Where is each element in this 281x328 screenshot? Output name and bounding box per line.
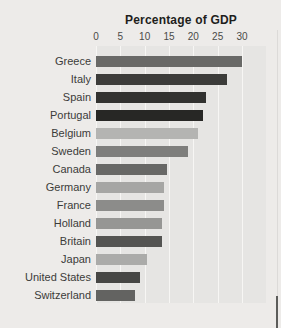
bar: [96, 272, 140, 283]
category-label: Portugal: [0, 107, 91, 124]
page-edge-line-upper: [277, 30, 278, 296]
gridline: [242, 46, 243, 303]
page-edge-line-lower: [276, 296, 278, 328]
bar: [96, 218, 162, 229]
category-label: Holland: [0, 215, 91, 232]
category-label: Germany: [0, 179, 91, 196]
category-label: Sweden: [0, 143, 91, 160]
category-label: Canada: [0, 161, 91, 178]
x-tick-label: 0: [93, 31, 99, 42]
category-label: Switzerland: [0, 287, 91, 304]
category-label: Greece: [0, 53, 91, 70]
x-tick-label: 20: [188, 31, 199, 42]
category-label: France: [0, 197, 91, 214]
x-tick-label: 25: [212, 31, 223, 42]
category-label: United States: [0, 269, 91, 286]
x-tick-label: 30: [236, 31, 247, 42]
category-label: Japan: [0, 251, 91, 268]
category-label: Britain: [0, 233, 91, 250]
bar: [96, 110, 203, 121]
bar: [96, 92, 206, 103]
x-tick-label: 10: [139, 31, 150, 42]
x-tick-label: 15: [163, 31, 174, 42]
x-tick-label: 5: [118, 31, 124, 42]
bar: [96, 236, 162, 247]
category-label: Spain: [0, 89, 91, 106]
bar: [96, 254, 147, 265]
bar: [96, 200, 164, 211]
bar: [96, 146, 188, 157]
bar: [96, 56, 242, 67]
bar: [96, 182, 164, 193]
category-label: Italy: [0, 71, 91, 88]
bar: [96, 290, 135, 301]
bar: [96, 74, 227, 85]
chart-canvas: Percentage of GDP 051015202530 GreeceIta…: [0, 0, 281, 328]
bar: [96, 128, 198, 139]
chart-title: Percentage of GDP: [96, 13, 266, 27]
category-label: Belgium: [0, 125, 91, 142]
bar: [96, 164, 167, 175]
